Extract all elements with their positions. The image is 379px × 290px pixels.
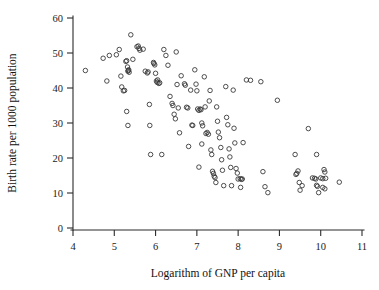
x-tick-label: 6 (153, 241, 158, 252)
data-point (83, 68, 88, 73)
data-point (124, 109, 129, 114)
data-point (337, 180, 342, 185)
data-point (216, 130, 221, 135)
data-point (179, 74, 184, 79)
x-tick-label: 7 (194, 241, 199, 252)
data-point (228, 155, 233, 160)
data-point (172, 112, 177, 117)
data-point (148, 152, 153, 157)
y-axis-title: Birth rate per 1000 population (6, 53, 19, 192)
data-point (323, 176, 328, 181)
data-point (224, 84, 229, 89)
x-tick-label: 11 (357, 241, 367, 252)
data-point (232, 126, 237, 131)
data-point (300, 183, 305, 188)
data-point (227, 147, 232, 152)
data-point (306, 126, 311, 131)
x-tick-label: 9 (277, 241, 282, 252)
data-point (107, 53, 112, 58)
y-tick-label: 50 (53, 48, 64, 59)
data-point (259, 79, 264, 84)
data-point (241, 140, 246, 145)
x-tick-label: 8 (236, 241, 241, 252)
x-tick-label: 4 (70, 241, 76, 252)
data-point (147, 102, 152, 107)
data-point (234, 166, 239, 171)
data-point (148, 123, 153, 128)
x-tick-label: 10 (315, 241, 326, 252)
data-point (194, 82, 199, 87)
data-point (215, 119, 220, 124)
data-point (126, 123, 131, 128)
data-point (183, 83, 188, 88)
data-point (208, 88, 213, 93)
data-point (129, 33, 134, 38)
data-points (83, 33, 341, 195)
data-point (228, 165, 233, 170)
data-point (261, 169, 266, 174)
data-point (207, 99, 212, 104)
data-point (219, 158, 224, 163)
data-point (275, 98, 280, 103)
data-point (298, 188, 303, 193)
y-tick-label: 20 (53, 153, 64, 164)
data-point (186, 144, 191, 149)
data-point (193, 68, 198, 73)
data-point (231, 88, 236, 93)
data-point (131, 57, 136, 62)
y-tick-label: 60 (53, 13, 64, 24)
x-axis-title: Logarithm of GNP per capita (151, 267, 285, 280)
data-point (200, 124, 205, 129)
data-point (203, 105, 208, 110)
data-point (162, 47, 167, 52)
data-point (293, 152, 298, 157)
data-point (233, 141, 238, 146)
data-point (153, 71, 158, 76)
data-point (175, 82, 180, 87)
data-point (209, 152, 214, 157)
data-point (200, 142, 205, 147)
data-point (238, 185, 243, 190)
data-point (316, 190, 321, 195)
data-point (117, 47, 122, 52)
data-point (173, 117, 178, 122)
data-point (164, 53, 169, 58)
data-point (188, 88, 193, 93)
data-point (114, 53, 119, 58)
data-point (213, 175, 218, 180)
data-point (224, 115, 229, 120)
y-tick-label: 0 (58, 223, 63, 234)
data-point (168, 94, 173, 99)
data-point (160, 152, 165, 157)
x-tick-label: 5 (112, 241, 117, 252)
y-tick-label: 10 (53, 188, 64, 199)
data-point (219, 145, 224, 150)
data-point (214, 180, 219, 185)
data-point (202, 75, 207, 80)
data-point (214, 105, 219, 110)
data-point (217, 135, 222, 140)
data-point (174, 50, 179, 55)
data-point (176, 106, 181, 111)
x-axis-ticks: 4567891011 (70, 230, 367, 252)
data-point (221, 183, 226, 188)
data-point (263, 184, 268, 189)
data-point (266, 190, 271, 195)
y-tick-label: 30 (53, 118, 64, 129)
data-point (101, 56, 106, 61)
data-point (177, 131, 182, 136)
data-point (195, 89, 200, 94)
data-point (220, 168, 225, 173)
y-tick-label: 40 (53, 83, 64, 94)
data-point (314, 152, 319, 157)
data-point (105, 79, 110, 84)
scatter-plot-figure: 0102030405060 4567891011 Logarithm of GN… (0, 0, 379, 290)
data-point (166, 63, 171, 68)
data-point (235, 171, 240, 176)
data-point (119, 74, 124, 79)
y-axis-ticks: 0102030405060 (53, 13, 74, 234)
data-point (226, 123, 231, 128)
data-point (197, 165, 202, 170)
data-point (229, 183, 234, 188)
plot-canvas: 0102030405060 4567891011 Logarithm of GN… (0, 0, 379, 290)
